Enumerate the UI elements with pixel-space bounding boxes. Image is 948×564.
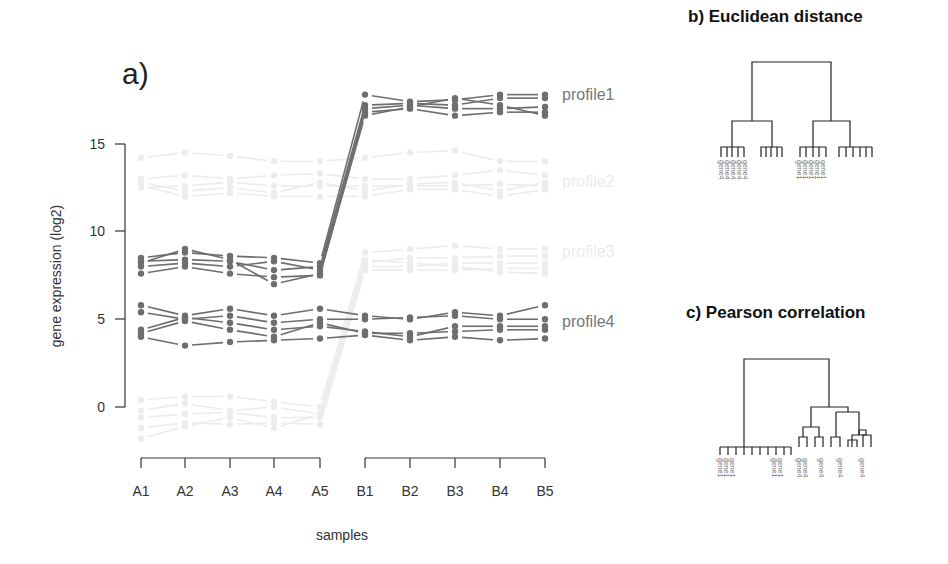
data-point [227, 306, 233, 312]
leaf-label: gene4 [741, 160, 749, 180]
gene-line-segment [462, 256, 493, 257]
figure: a) 15 10 5 0 gene expression (log2) A1A2… [0, 0, 948, 564]
leaf-label: gene1 [722, 458, 730, 478]
x-tick-B1: B1 [356, 483, 373, 499]
gene-line-segment [372, 336, 403, 340]
y-tick-0: 0 [97, 399, 105, 415]
gene-line-segment [192, 405, 223, 410]
gene-line-segment [417, 332, 448, 333]
gene-line-segment [507, 171, 538, 175]
data-point [542, 316, 548, 322]
data-point [227, 256, 233, 262]
data-point [497, 102, 503, 108]
data-point [452, 186, 458, 192]
x-tick-labels: A1A2A3A4A5B1B2B3B4B5 [132, 483, 553, 499]
data-point [317, 193, 323, 199]
panel-b-title: b) Euclidean distance [688, 7, 863, 26]
gene-line-segment [462, 316, 493, 318]
leaf-label: gene1 [801, 160, 809, 180]
pearson-leaf-labels: gene1gene1gene1gene1gene1gene4gene4gene4… [716, 458, 866, 478]
data-point [138, 155, 144, 161]
leaf-label: gene4 [717, 160, 725, 180]
data-point [362, 176, 368, 182]
gene-line-segment [148, 428, 179, 437]
data-point [271, 327, 277, 333]
data-point [271, 267, 277, 273]
data-point [182, 149, 188, 155]
data-point [542, 335, 548, 341]
gene-line-segment [462, 113, 493, 115]
data-point [542, 270, 548, 276]
data-point [497, 327, 503, 333]
data-point [138, 260, 144, 266]
data-point [271, 158, 277, 164]
gene-line-segment [148, 405, 178, 410]
y-axis-label: gene expression (log2) [48, 205, 64, 347]
data-point [227, 414, 233, 420]
data-point [138, 397, 144, 403]
data-point [407, 186, 413, 192]
gene-line-segment [281, 259, 313, 263]
leaf-label: gene4 [729, 160, 737, 180]
data-point [497, 269, 503, 275]
data-point [452, 179, 458, 185]
gene-line-segment [148, 268, 178, 273]
profile3-label: profile3 [562, 243, 615, 260]
leaf-label: gene4 [836, 458, 844, 478]
gene-line-segment [237, 183, 267, 185]
gene-line-segment [237, 397, 267, 401]
profile3-series [138, 242, 548, 441]
data-point [497, 253, 503, 259]
gene-line-segment [148, 397, 178, 399]
x-tick-A3: A3 [221, 483, 238, 499]
data-point [497, 337, 503, 343]
gene-line-segment [417, 151, 448, 152]
gene-line-segment [322, 273, 363, 411]
gene-line-segment [237, 157, 267, 161]
leaf-label: gene1 [728, 458, 736, 478]
gene-line-segment [281, 174, 313, 175]
gene-line-segment [462, 246, 493, 248]
gene-line-segment [372, 250, 403, 252]
x-tick-A4: A4 [265, 483, 282, 499]
gene-line-segment [462, 190, 493, 195]
data-point [271, 337, 277, 343]
data-point [497, 316, 503, 322]
data-point [271, 425, 277, 431]
gene-line-segment [237, 408, 267, 410]
leaf-label: gene1 [813, 160, 821, 180]
data-point [542, 112, 548, 118]
data-point [452, 172, 458, 178]
data-point [182, 400, 188, 406]
x-tick-B3: B3 [446, 483, 463, 499]
data-point [317, 179, 323, 185]
data-point [497, 181, 503, 187]
gene-line-segment [281, 320, 313, 322]
data-point [182, 263, 188, 269]
gene-line-segment [281, 339, 313, 340]
data-point [271, 274, 277, 280]
data-point [317, 270, 323, 276]
data-point [182, 411, 188, 417]
data-point [317, 158, 323, 164]
gene-line-segment [237, 274, 267, 276]
data-point [452, 242, 458, 248]
x-tick-A5: A5 [311, 483, 328, 499]
gene-line-segment [237, 256, 267, 257]
gene-line-segment [322, 277, 363, 418]
data-point [407, 267, 413, 273]
leaf-label: gene4 [817, 458, 825, 478]
data-point [542, 253, 548, 259]
data-point [362, 316, 368, 322]
data-point [407, 337, 413, 343]
data-point [542, 158, 548, 164]
data-point [182, 193, 188, 199]
data-point [362, 332, 368, 338]
data-point [497, 193, 503, 199]
data-point [271, 320, 277, 326]
gene-line-segment [322, 101, 363, 256]
data-point [182, 393, 188, 399]
data-point [362, 193, 368, 199]
data-point [542, 179, 548, 185]
x-axis [141, 458, 545, 468]
